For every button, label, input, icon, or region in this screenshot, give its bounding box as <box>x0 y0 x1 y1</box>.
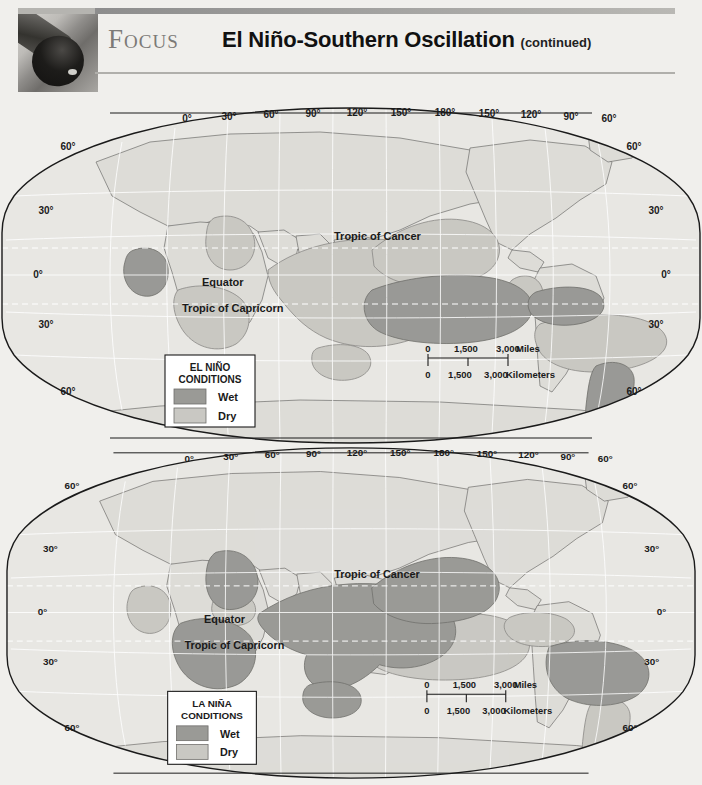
lat-label: 60° <box>623 480 638 491</box>
region-gulf-coast-wet <box>528 287 604 325</box>
lat-label: 60° <box>626 386 641 397</box>
map-el-nino: 0° 30° 60° 90° 120° 150° 180° 150° 120° … <box>0 100 702 450</box>
lat-label: 30° <box>43 543 58 554</box>
lat-label: 60° <box>60 386 75 397</box>
lat-label: 30° <box>38 205 53 216</box>
lat-label: 60° <box>623 722 638 733</box>
lon-label: 60° <box>265 449 280 460</box>
page-title-text: El Niño-Southern Oscillation <box>222 27 515 52</box>
scale-km-tick: 3,000 <box>484 369 508 380</box>
legend-swatch-dry <box>177 745 209 760</box>
lat-label: 30° <box>38 319 53 330</box>
scale-miles-tick: 1,500 <box>454 343 478 354</box>
lon-label: 150° <box>477 448 497 459</box>
map-la-nina: 0° 30° 60° 90° 120° 150° 180° 150° 120° … <box>0 440 702 785</box>
legend-title-line2: CONDITIONS <box>179 374 242 385</box>
lat-label: 30° <box>648 205 663 216</box>
continued-note: (continued) <box>521 35 592 50</box>
legend-swatch-wet <box>174 389 206 404</box>
legend-title-line1: LA NIÑA <box>192 698 232 709</box>
legend-label-dry: Dry <box>218 410 237 422</box>
label-tropic-of-capricorn: Tropic of Capricorn <box>182 302 284 314</box>
label-tropic-of-cancer: Tropic of Cancer <box>334 568 420 580</box>
scale-km-unit: Kilometers <box>504 706 552 716</box>
scale-km-tick: 0 <box>424 706 429 716</box>
lon-label: 90° <box>305 108 320 119</box>
region-east-africa-wet <box>124 248 169 296</box>
lon-label: 120° <box>347 447 367 458</box>
lon-label: 90° <box>306 448 321 459</box>
lon-label: 90° <box>563 111 578 122</box>
legend-label-wet: Wet <box>220 728 240 740</box>
legend-title-line1: EL NIÑO <box>190 361 231 373</box>
scale-km-tick: 3,000 <box>482 706 505 716</box>
lon-label: 180° <box>433 447 453 458</box>
lat-label: 60° <box>65 480 80 491</box>
lat-label: 60° <box>626 141 641 152</box>
scale-miles-tick: 0 <box>424 680 429 690</box>
lat-label: 0° <box>657 606 666 617</box>
lat-label: 60° <box>60 141 75 152</box>
legend-swatch-dry <box>174 408 206 423</box>
lon-label: 120° <box>347 107 368 118</box>
lat-label: 60° <box>65 722 80 733</box>
legend-title-line2: CONDITIONS <box>181 710 243 721</box>
lon-label: 120° <box>518 449 538 460</box>
legend-label-dry: Dry <box>220 746 238 758</box>
lon-label: 90° <box>560 451 575 462</box>
scale-km-tick: 0 <box>425 369 430 380</box>
lon-label: 120° <box>521 109 542 120</box>
scale-km-unit: Kilometers <box>506 369 555 380</box>
label-equator: Equator <box>202 276 244 288</box>
lat-label: 0° <box>33 269 43 280</box>
lon-label: 60° <box>598 453 613 464</box>
lon-label: 60° <box>263 109 278 120</box>
scale-miles-unit: Miles <box>516 343 540 354</box>
scale-miles-tick: 1,500 <box>453 680 476 690</box>
label-tropic-of-cancer: Tropic of Cancer <box>334 230 422 242</box>
lon-label: 180° <box>435 107 456 118</box>
lat-label: 30° <box>644 543 659 554</box>
label-equator: Equator <box>204 613 246 625</box>
lon-label: 30° <box>223 451 238 462</box>
header-accent-bar <box>95 8 675 14</box>
lon-label: 30° <box>221 111 236 122</box>
lat-label: 0° <box>38 606 47 617</box>
focus-kicker: Focus <box>108 24 179 55</box>
lat-label: 30° <box>43 656 58 667</box>
region-equatorial-pacific-wet-lobe <box>303 682 362 718</box>
lon-label: 150° <box>391 107 412 118</box>
scale-km-tick: 1,500 <box>448 369 472 380</box>
region-central-pacific-wet <box>364 275 532 343</box>
telescope-lens-photo <box>18 14 98 92</box>
legend-label-wet: Wet <box>218 391 238 403</box>
map-legend: LA NIÑA CONDITIONS Wet Dry <box>168 691 257 764</box>
scale-km-tick: 1,500 <box>447 706 470 716</box>
header-divider <box>95 72 675 74</box>
map-legend: EL NIÑO CONDITIONS Wet Dry <box>165 355 255 427</box>
scale-miles-tick: 0 <box>425 343 430 354</box>
lat-label: 30° <box>648 319 663 330</box>
lat-label: 0° <box>661 269 671 280</box>
label-tropic-of-capricorn: Tropic of Capricorn <box>184 639 284 651</box>
page-title: El Niño-Southern Oscillation (continued) <box>222 27 591 53</box>
scale-miles-unit: Miles <box>514 680 537 690</box>
lon-label: 0° <box>182 113 192 124</box>
legend-swatch-wet <box>177 726 209 741</box>
focus-header: Focus El Niño-Southern Oscillation (cont… <box>0 0 702 100</box>
lat-label: 30° <box>644 656 659 667</box>
lon-label: 0° <box>185 453 194 464</box>
region-east-africa-dry <box>127 586 171 634</box>
lon-label: 150° <box>479 108 500 119</box>
lon-label: 150° <box>390 447 410 458</box>
lon-label: 60° <box>601 113 616 124</box>
